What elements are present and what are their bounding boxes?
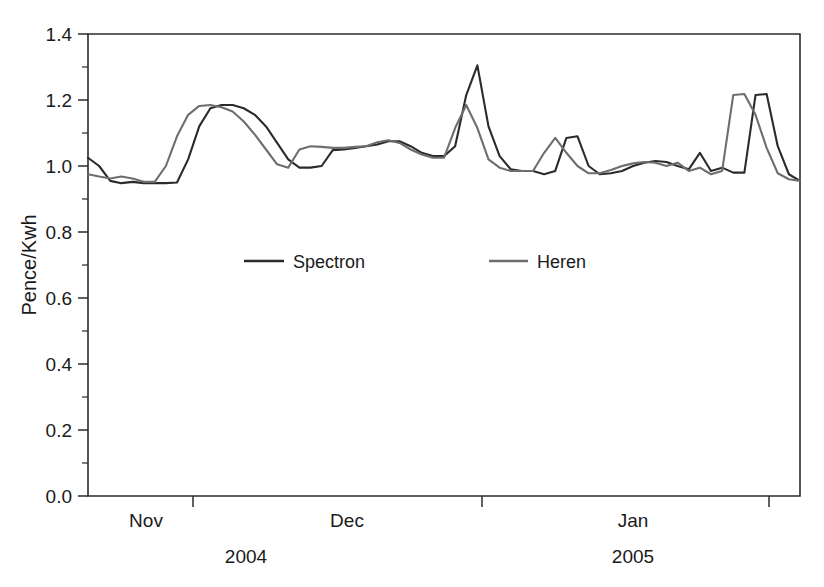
- y-label-0-6: 0.6: [46, 288, 72, 309]
- y-label-0-2: 0.2: [46, 420, 72, 441]
- y-axis-tick-labels: 1.4 1.2 1.0 0.8 0.6 0.4 0.2 0.0: [46, 24, 73, 507]
- x-label-nov: Nov: [129, 510, 163, 531]
- x-label-jan: Jan: [618, 510, 649, 531]
- legend-label-heren: Heren: [537, 252, 586, 272]
- x-label-year-2005: 2005: [612, 546, 654, 567]
- chart-figure: 1.4 1.2 1.0 0.8 0.6 0.4 0.2 0.0 Pence/Kw…: [0, 0, 824, 587]
- x-label-dec: Dec: [330, 510, 364, 531]
- legend-label-spectron: Spectron: [293, 252, 365, 272]
- plot-border: [88, 34, 800, 496]
- x-axis-year-labels: 2004 2005: [225, 546, 654, 567]
- line-chart: 1.4 1.2 1.0 0.8 0.6 0.4 0.2 0.0 Pence/Kw…: [0, 0, 824, 587]
- plot-frame: [88, 34, 800, 496]
- y-label-0-8: 0.8: [46, 222, 72, 243]
- y-label-1-4: 1.4: [46, 24, 73, 45]
- x-axis-ticks: [193, 496, 769, 507]
- y-axis-minor-ticks: [82, 67, 88, 463]
- x-label-year-2004: 2004: [225, 546, 268, 567]
- y-axis-title: Pence/Kwh: [18, 214, 40, 315]
- series-line-spectron: [88, 65, 800, 183]
- y-label-0-4: 0.4: [46, 354, 73, 375]
- y-label-0-0: 0.0: [46, 486, 72, 507]
- x-axis-month-labels: Nov Dec Jan: [129, 510, 648, 531]
- y-label-1-0: 1.0: [46, 156, 72, 177]
- y-label-1-2: 1.2: [46, 90, 72, 111]
- chart-legend: Spectron Heren: [244, 252, 586, 272]
- data-series-group: [88, 65, 800, 183]
